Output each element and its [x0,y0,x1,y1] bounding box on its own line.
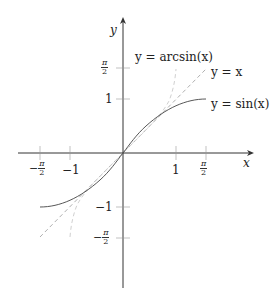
x-tick-neg-one: −1 [62,164,80,176]
fraction: π2 [200,160,207,177]
frac-den: 2 [102,68,107,76]
minus-sign: − [29,162,38,175]
y-tick-one: 1 [105,93,113,105]
frac-den: 2 [201,169,206,177]
plot-canvas [0,0,273,302]
y-tick-neg-one: −1 [95,201,113,213]
minus-sign: − [93,231,102,244]
x-axis-label: x [243,157,250,169]
annotation-identity: y = x [211,66,242,78]
frac-den: 2 [103,238,108,246]
frac-den: 2 [39,169,44,177]
fraction: π2 [102,229,109,246]
annotation-sine: y = sin(x) [211,98,269,110]
x-tick-neg-pi-half: −π2 [29,160,45,177]
fraction: π2 [101,59,108,76]
y-tick-pi-half: π2 [101,59,108,76]
x-tick-one: 1 [172,164,180,176]
fraction: π2 [38,160,45,177]
annotation-arcsin: y = arcsin(x) [135,51,213,63]
y-axis-label: y [110,24,117,36]
y-tick-neg-pi-half: −π2 [93,229,109,246]
x-tick-pi-half: π2 [200,160,207,177]
